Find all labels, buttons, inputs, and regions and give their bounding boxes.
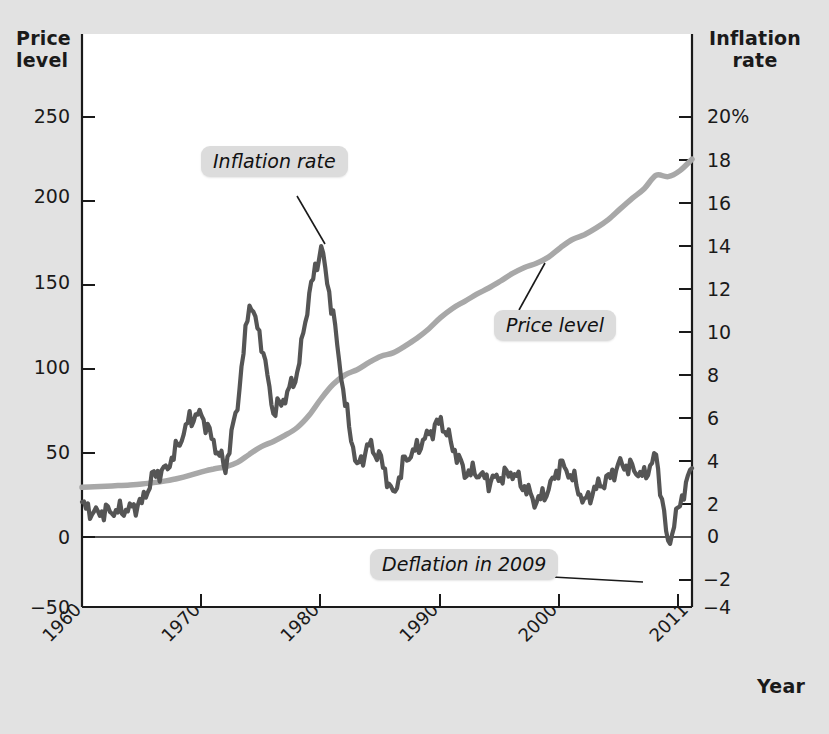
annotation-price-level: Price level <box>494 310 616 341</box>
annotation-deflation-2009: Deflation in 2009 <box>370 549 558 580</box>
annotation-inflation-rate: Inflation rate <box>201 146 348 177</box>
chart-container: Price level Inflation rate Year 250 200 … <box>0 0 829 734</box>
chart-svg <box>0 0 829 734</box>
